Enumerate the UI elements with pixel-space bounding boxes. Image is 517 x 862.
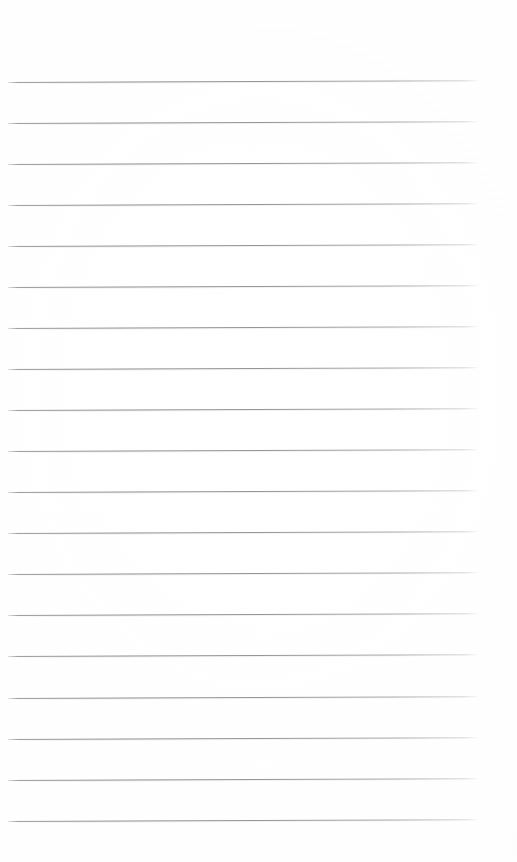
ruled-line: [8, 367, 478, 370]
ruled-line: [8, 696, 478, 699]
ruled-line: [8, 737, 478, 740]
ruled-line: [8, 490, 478, 493]
ruled-line: [8, 244, 478, 247]
ruled-line: [8, 819, 478, 822]
ruled-line: [8, 531, 478, 534]
ruled-line: [8, 203, 478, 206]
ruled-line: [8, 613, 478, 616]
ruled-writing-area[interactable]: [0, 0, 517, 862]
ruled-line: [8, 162, 478, 165]
ruled-line: [8, 572, 478, 575]
ruled-line: [8, 326, 478, 329]
ruled-line: [8, 285, 478, 288]
ruled-line: [8, 80, 478, 83]
ruled-line: [8, 654, 478, 657]
ruled-line: [8, 778, 478, 781]
ruled-line: [8, 449, 478, 452]
ruled-line: [8, 408, 478, 411]
ruled-line: [8, 121, 478, 124]
notebook-page: [0, 0, 517, 862]
